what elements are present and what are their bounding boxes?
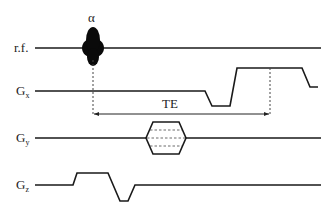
pulse-sequence-diagram: r.f. Gx Gy Gz α TE	[0, 0, 335, 212]
flip-angle-label: α	[88, 10, 95, 25]
gy-phase-steps	[147, 130, 185, 146]
gx-label: Gx	[16, 83, 29, 100]
gy-label: Gy	[16, 130, 29, 147]
gz-label: Gz	[16, 177, 29, 194]
rf-label: r.f.	[14, 40, 28, 55]
te-arrow	[94, 112, 269, 116]
te-label: TE	[162, 96, 178, 111]
gz-waveform	[35, 173, 321, 201]
